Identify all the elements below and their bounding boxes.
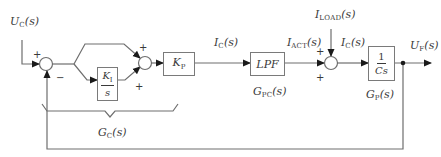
output-signal-label: UF(s) bbox=[410, 40, 439, 53]
load-current-label: ILOAD(s) bbox=[315, 9, 355, 22]
controller-brace bbox=[42, 104, 178, 117]
proportional-gain-block: KP bbox=[163, 52, 195, 76]
pi-sum-plus-bottom-sign: + bbox=[135, 82, 143, 92]
output-branch-point bbox=[401, 61, 406, 66]
controller-output-label: IC(s) bbox=[214, 37, 238, 50]
integral-block: KI s bbox=[97, 67, 118, 101]
capacitor-current-label: IC(s) bbox=[341, 37, 365, 50]
pi-summing-junction bbox=[139, 57, 152, 70]
integral-branch-out-line bbox=[117, 67, 140, 80]
controller-transfer-label: GC(s) bbox=[98, 127, 127, 140]
current-summing-junction bbox=[325, 57, 338, 70]
error-summing-junction bbox=[40, 58, 53, 71]
filter-transfer-label: GPC(s) bbox=[253, 86, 287, 99]
current-sum-plus-bottom-sign: + bbox=[316, 73, 324, 83]
error-sum-plus-sign: + bbox=[33, 50, 41, 60]
pi-sum-plus-top-sign: + bbox=[139, 43, 147, 53]
plant-transfer-label: GP(s) bbox=[366, 89, 394, 102]
input-signal-label: UC(s) bbox=[10, 16, 39, 29]
proportional-branch-line bbox=[74, 44, 140, 64]
current-sum-plus-top-sign: + bbox=[316, 47, 324, 57]
plant-block: 1 Cs bbox=[368, 46, 395, 81]
integral-branch-in-line bbox=[74, 64, 97, 80]
low-pass-filter-block: LPF bbox=[250, 52, 285, 76]
error-sum-minus-sign: − bbox=[56, 73, 64, 83]
